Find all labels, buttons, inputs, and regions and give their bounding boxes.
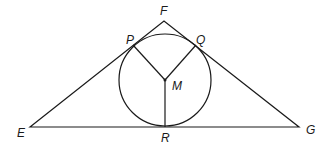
label-q: Q	[196, 33, 205, 47]
label-m: M	[172, 79, 182, 93]
label-p: P	[126, 33, 134, 47]
label-g: G	[306, 123, 315, 137]
label-r: R	[161, 131, 170, 145]
center-point-m	[164, 79, 167, 82]
geometry-diagram: F P Q M E R G	[0, 0, 325, 147]
label-e: E	[17, 126, 26, 140]
label-f: F	[160, 4, 168, 18]
segment-mq	[165, 45, 196, 80]
segment-mp	[133, 45, 165, 80]
